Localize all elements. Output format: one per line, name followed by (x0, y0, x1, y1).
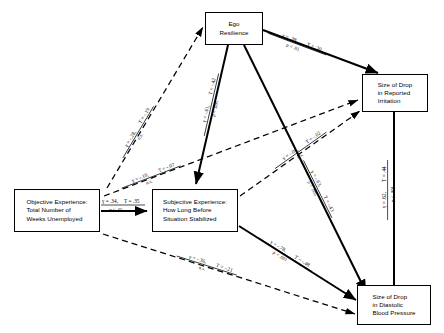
edge-irritation-to-bloodpressure-sig: p < .001 (390, 185, 395, 202)
node-size-of-drop-in-reported-irritation: Size of Drop in Reported Irritation (362, 74, 428, 112)
edge-objective-to-bloodpressure-sig: n.s. (198, 265, 206, 272)
edge-ego-to-bloodpressure: γ = -.63, T = -.43 p < .005 (244, 45, 366, 292)
node-irritation-label: Size of Drop in Reported Irritation (375, 79, 416, 108)
edge-ego-to-subjective-gamma: γ = -.61, (200, 104, 210, 123)
node-objective-experience-label: Objective Experience: Total Number of We… (23, 196, 90, 225)
edge-objective-to-bloodpressure: γ = -.36, T = -.21 n.s. (103, 234, 355, 314)
node-subjective-experience: Subjective Experience: How Long Before S… (152, 189, 238, 232)
edge-objective-to-subjective-gamma: γ = .34, (102, 198, 118, 204)
edge-objective-to-subjective-sig: p < .05 (109, 207, 123, 212)
path-diagram-canvas: γ = .39, T = .30 p < .01 γ = -.61, T = -… (0, 0, 444, 333)
edge-objective-to-subjective-tau: T = .35 (124, 198, 140, 204)
edge-ego-to-irritation: γ = .39, T = .30 p < .01 (263, 27, 378, 73)
node-subjective-experience-label: Subjective Experience: How Long Before S… (160, 196, 230, 225)
node-size-of-drop-in-diastolic-blood-pressure: Size of Drop in Diastolic Blood Pressure (357, 285, 431, 325)
node-objective-experience: Objective Experience: Total Number of We… (14, 189, 100, 232)
edge-irritation-to-bloodpressure-tau: T = .44 (381, 166, 387, 182)
edge-irritation-to-bloodpressure-gamma: γ = .62, (381, 192, 387, 208)
edge-ego-to-subjective: γ = -.61, T = -.42 p < .005 (196, 45, 228, 184)
edge-subjective-to-irritation: γ = -.04, T = -.02 n.s. (240, 111, 360, 196)
edge-objective-to-ego-gamma: γ = -.28, (123, 130, 137, 148)
edge-objective-to-ego-tau: T = -.19 (137, 106, 151, 124)
node-ego-resilience: Ego Resilience (205, 12, 263, 45)
edge-objective-to-subjective: γ = .34, T = .35 p < .05 (101, 198, 147, 211)
node-blood-pressure-label: Size of Drop in Diastolic Blood Pressure (369, 291, 418, 320)
node-ego-resilience-label: Ego Resilience (216, 18, 251, 38)
edge-irritation-to-bloodpressure: γ = .62, T = .44 p < .001 (381, 112, 395, 285)
edge-objective-to-irritation-sig: n.s. (145, 178, 153, 185)
edge-ego-to-subjective-tau: T = -.42 (207, 77, 217, 95)
